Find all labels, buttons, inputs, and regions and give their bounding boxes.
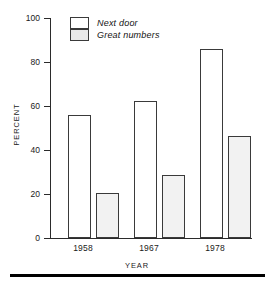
legend-label-great-numbers: Great numbers: [97, 30, 160, 40]
bar-chart-figure: 100 80 60 40 20 0 PERCENT 1958 1967 1978…: [0, 0, 274, 282]
x-tick-label-1978: 1978: [195, 243, 235, 253]
x-axis-title: YEAR: [0, 261, 274, 270]
x-tick-label-1958: 1958: [63, 243, 103, 253]
bottom-rule-divider: [10, 274, 265, 277]
x-axis-line: [50, 238, 252, 239]
bar-1978-great-numbers: [228, 136, 251, 238]
y-axis-title: PERCENT: [12, 95, 21, 155]
bar-1978-next-door: [200, 49, 223, 238]
bar-1958-next-door: [68, 115, 91, 238]
bar-1967-next-door: [134, 101, 157, 239]
bar-1967-great-numbers: [162, 175, 185, 238]
x-tick-label-1967: 1967: [129, 243, 169, 253]
y-tick-label-80: 80: [0, 57, 40, 67]
y-tick-label-0: 0: [0, 233, 40, 243]
legend-swatch-open-box-icon: [70, 17, 89, 29]
y-tick-label-100: 100: [0, 13, 40, 23]
legend-swatch-hatched-box-icon: [70, 29, 89, 41]
y-tick-label-20: 20: [0, 189, 40, 199]
legend-label-next-door: Next door: [97, 18, 138, 28]
bar-1958-great-numbers: [96, 193, 119, 238]
plot-area: [50, 18, 252, 238]
